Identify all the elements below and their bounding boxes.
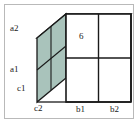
box-diagram: a2 a1 c1 c2 b1 b2 6 <box>0 0 138 123</box>
label-b1: b1 <box>76 104 85 114</box>
label-c2: c2 <box>34 103 43 113</box>
box-diagram-svg: a2 a1 c1 c2 b1 b2 6 <box>0 0 138 123</box>
label-c1: c1 <box>17 83 26 93</box>
left-face-group <box>37 14 66 102</box>
figure-container: a2 a1 c1 c2 b1 b2 6 <box>0 0 138 123</box>
label-a1: a1 <box>10 64 19 74</box>
front-face-group <box>66 14 131 102</box>
cell-value-front-top-left: 6 <box>79 31 84 41</box>
label-a2: a2 <box>10 23 19 33</box>
label-b2: b2 <box>110 104 119 114</box>
